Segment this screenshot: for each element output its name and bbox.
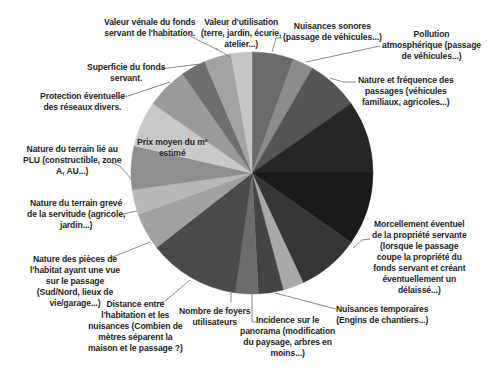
leader-morcellement (353, 239, 370, 248)
leader-pollution (306, 46, 380, 62)
label-superficie: Superficie du fonds servant. (87, 62, 165, 84)
leader-temporaires (275, 293, 336, 309)
label-valeur-utilisation: Valeur d'utilisation (terre, jardin, écu… (201, 17, 281, 50)
label-temporaires: Nuisances temporaires (Engins de chantie… (336, 304, 428, 326)
label-terrain-greve: Nature du terrain grevé de la servitude … (27, 198, 125, 231)
label-distance: Distance entre l'habitation et les nuisa… (88, 299, 183, 354)
label-valeur-venale: Valeur vénale du fonds servant de l'habi… (104, 17, 195, 39)
label-panorama: Incidence sur le panorama (modification … (240, 315, 335, 359)
label-nature-frequence: Nature et fréquence des passages (véhicu… (358, 75, 454, 108)
label-protection: Protection éventuelle des réseaux divers… (40, 91, 125, 113)
pie-slices (131, 52, 373, 294)
label-pollution: Pollution atmosphérique (passage de véhi… (382, 29, 481, 62)
label-plu: Nature du terrain lié au PLU (constructi… (23, 144, 121, 177)
label-prix-moyen: Prix moyen du m² estimé (137, 137, 208, 159)
label-morcellement: Morcellement éventuel de la propriété se… (372, 219, 467, 296)
leader-nature-frequence (330, 78, 356, 82)
label-nuisances-sonores: Nuisances sonores (passage de véhicules.… (283, 21, 382, 43)
